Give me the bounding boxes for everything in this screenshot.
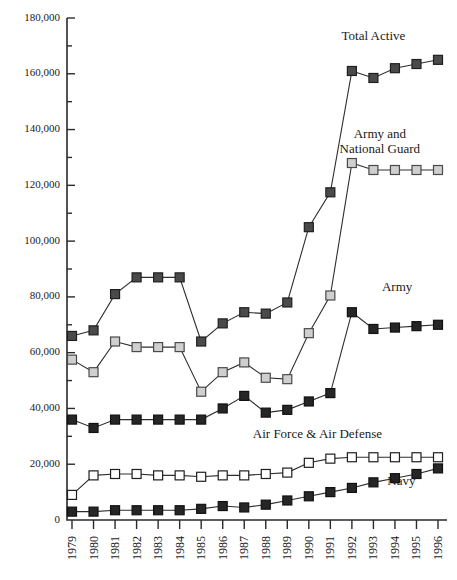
data-point-marker — [154, 343, 163, 352]
data-point-marker — [412, 453, 421, 462]
data-point-marker — [197, 472, 206, 481]
data-point-marker — [154, 415, 163, 424]
series-air-force-air-defense — [68, 453, 443, 500]
x-axis-tick-label: 1995 — [409, 536, 423, 560]
data-point-marker — [240, 358, 249, 367]
series-line — [72, 457, 438, 495]
data-point-marker — [218, 404, 227, 413]
data-point-marker — [261, 469, 270, 478]
series-annotation-label: Total Active — [342, 28, 406, 43]
x-axis-tick-label: 1979 — [65, 536, 79, 560]
y-axis-tick-label: 20,000 — [30, 457, 61, 469]
series-navy — [68, 464, 443, 516]
data-point-marker — [240, 308, 249, 317]
data-point-marker — [197, 415, 206, 424]
data-point-marker — [132, 506, 141, 515]
series-annotation-label: Navy — [387, 473, 416, 488]
data-point-marker — [434, 320, 443, 329]
data-point-marker — [132, 415, 141, 424]
data-point-marker — [261, 373, 270, 382]
x-axis-tick-label: 1983 — [151, 536, 165, 560]
series-annotation-label: Army — [382, 279, 413, 294]
x-axis-tick-label: 1988 — [259, 536, 273, 560]
data-point-marker — [304, 458, 313, 467]
line-chart: 180,000160,000140,000120,000100,00080,00… — [0, 0, 457, 580]
y-axis-tick-label: 60,000 — [30, 345, 61, 357]
data-point-marker — [304, 397, 313, 406]
y-axis-tick-label: 140,000 — [24, 122, 60, 134]
x-axis-tick-label: 1990 — [302, 536, 316, 560]
data-point-marker — [390, 165, 399, 174]
data-point-marker — [434, 55, 443, 64]
data-point-marker — [369, 478, 378, 487]
data-point-marker — [412, 165, 421, 174]
series-annotation-label: Army and — [354, 126, 407, 141]
data-point-marker — [218, 368, 227, 377]
data-point-marker — [175, 343, 184, 352]
data-point-marker — [197, 504, 206, 513]
data-point-marker — [326, 188, 335, 197]
data-point-marker — [326, 454, 335, 463]
data-point-marker — [347, 308, 356, 317]
data-point-marker — [369, 453, 378, 462]
data-point-marker — [111, 506, 120, 515]
data-point-marker — [175, 506, 184, 515]
data-point-marker — [154, 471, 163, 480]
y-axis-tick-label: 160,000 — [24, 66, 60, 78]
y-axis-tick-label: 40,000 — [30, 401, 61, 413]
data-point-marker — [111, 469, 120, 478]
data-point-marker — [89, 507, 98, 516]
data-point-marker — [347, 66, 356, 75]
data-point-marker — [283, 298, 292, 307]
data-point-marker — [218, 471, 227, 480]
data-point-marker — [326, 488, 335, 497]
data-point-marker — [347, 159, 356, 168]
data-point-marker — [175, 273, 184, 282]
data-point-marker — [240, 503, 249, 512]
data-point-marker — [304, 223, 313, 232]
y-axis-tick-label: 120,000 — [24, 178, 60, 190]
data-point-marker — [111, 415, 120, 424]
data-point-marker — [390, 453, 399, 462]
data-point-marker — [175, 415, 184, 424]
x-axis-tick-label: 1984 — [173, 536, 187, 560]
data-point-marker — [111, 290, 120, 299]
x-axis-tick-label: 1992 — [345, 536, 359, 560]
x-axis-tick-label: 1989 — [280, 536, 294, 560]
data-point-marker — [412, 60, 421, 69]
x-axis-tick-label: 1994 — [388, 536, 402, 560]
data-point-marker — [68, 507, 77, 516]
data-point-marker — [218, 319, 227, 328]
data-point-marker — [283, 405, 292, 414]
data-point-marker — [434, 165, 443, 174]
x-axis-tick-label: 1985 — [194, 536, 208, 560]
data-point-marker — [369, 165, 378, 174]
data-point-marker — [326, 291, 335, 300]
x-axis-tick-label: 1980 — [87, 536, 101, 560]
series-army-and-national-guard — [68, 159, 443, 397]
y-axis-tick-label: 80,000 — [30, 289, 61, 301]
data-point-marker — [240, 471, 249, 480]
data-point-marker — [89, 326, 98, 335]
data-point-marker — [347, 453, 356, 462]
data-point-marker — [304, 492, 313, 501]
data-point-marker — [68, 331, 77, 340]
chart-container: 180,000160,000140,000120,000100,00080,00… — [0, 0, 457, 580]
data-point-marker — [369, 324, 378, 333]
data-point-marker — [154, 506, 163, 515]
data-point-marker — [390, 323, 399, 332]
series-annotation-label: Air Force & Air Defense — [253, 426, 382, 441]
data-point-marker — [197, 387, 206, 396]
series-total-active — [68, 55, 443, 346]
data-point-marker — [390, 64, 399, 73]
data-point-marker — [218, 502, 227, 511]
data-point-marker — [89, 471, 98, 480]
data-point-marker — [283, 375, 292, 384]
data-point-marker — [111, 337, 120, 346]
x-axis-tick-label: 1982 — [130, 536, 144, 560]
x-axis-tick-label: 1987 — [237, 536, 251, 560]
x-axis-tick-label: 1986 — [216, 536, 230, 560]
data-point-marker — [175, 471, 184, 480]
data-point-marker — [261, 500, 270, 509]
x-axis-tick-label: 1991 — [323, 536, 337, 560]
